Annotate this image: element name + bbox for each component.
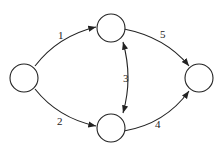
node-left xyxy=(10,64,38,92)
edge-2 xyxy=(35,89,96,126)
node-bottom xyxy=(97,114,125,142)
edge-label-5: 5 xyxy=(160,28,166,40)
node-right xyxy=(185,64,213,92)
graph-diagram: 1 2 3 4 5 xyxy=(0,0,222,151)
node-top xyxy=(97,14,125,42)
edge-label-4: 4 xyxy=(155,118,161,130)
edge-label-3: 3 xyxy=(123,72,129,84)
edge-1 xyxy=(35,27,96,66)
edge-label-2: 2 xyxy=(57,115,63,127)
edge-5 xyxy=(124,29,189,66)
edge-label-1: 1 xyxy=(58,29,64,41)
